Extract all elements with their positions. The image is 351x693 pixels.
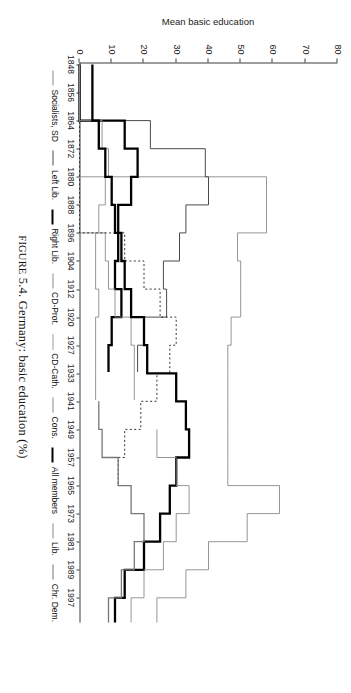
x-tick-label: 1997: [65, 588, 75, 607]
y-tick-label: 30: [171, 44, 181, 54]
legend-item[interactable]: Cons.: [47, 397, 59, 447]
legend-swatch-icon: [47, 564, 58, 579]
legend-item[interactable]: All members: [47, 447, 59, 522]
x-tick-label: 1912: [65, 279, 75, 298]
legend-item[interactable]: CD-Cath.: [47, 334, 59, 397]
legend-item[interactable]: Right Lib.: [47, 209, 59, 273]
legend-item-label: Chr. Dem.: [48, 583, 59, 621]
legend-swatch-icon: [47, 397, 58, 412]
y-tick: [175, 58, 176, 62]
y-tick-label: 60: [268, 44, 278, 54]
y-tick-label: 80: [332, 44, 342, 54]
y-tick: [272, 58, 273, 62]
series-line: [79, 64, 134, 399]
figure-caption: FIGURE 5.4. Germany: basic education (%): [14, 0, 29, 693]
rotated-figure-canvas: Mean basic education 01020304050607080 1…: [0, 0, 351, 693]
y-tick-label: 50: [235, 44, 245, 54]
legend-item[interactable]: Lib.: [47, 523, 59, 565]
legend-item-label: Right Lib.: [48, 228, 59, 264]
legend-item-label: CD-Cath.: [48, 353, 59, 388]
figure-page: Mean basic education 01020304050607080 1…: [0, 0, 351, 693]
series-line: [98, 401, 143, 622]
x-tick-label: 1896: [65, 223, 75, 242]
plot-area: 01020304050607080 1848185618641872188018…: [79, 62, 337, 622]
legend-item-label: Left Lib.: [48, 169, 59, 199]
series-line: [79, 64, 137, 371]
x-tick-label: 1872: [65, 139, 75, 158]
caption-prefix: F: [16, 235, 27, 241]
y-axis-title-label: Mean basic education: [162, 16, 254, 27]
legend-item-label: Socialists, SD: [48, 89, 59, 141]
x-tick-label: 1933: [65, 363, 75, 382]
series-line: [79, 64, 279, 622]
caption-text: Germany: basic education (%): [15, 300, 29, 458]
legend-item[interactable]: Socialists, SD: [47, 70, 59, 150]
legend-swatch-icon: [47, 447, 58, 462]
legend-item[interactable]: CD-Prot.: [47, 273, 59, 334]
y-tick: [207, 58, 208, 62]
x-tick-label: 1927: [65, 335, 75, 354]
y-tick-label: 10: [106, 44, 116, 54]
legend-item[interactable]: Chr. Dem.: [47, 564, 59, 630]
x-tick-label: 1904: [65, 251, 75, 270]
x-tick-label: 1888: [65, 195, 75, 214]
y-tick-label: 20: [139, 44, 149, 54]
legend-swatch-icon: [47, 70, 58, 85]
legend-swatch-icon: [47, 523, 58, 538]
legend-item[interactable]: Left Lib.: [47, 150, 59, 208]
y-tick: [143, 58, 144, 62]
y-tick: [336, 58, 337, 62]
x-tick-label: 1848: [65, 55, 75, 74]
series-line: [92, 64, 189, 622]
x-tick-label: 1880: [65, 167, 75, 186]
y-tick-label: 70: [300, 44, 310, 54]
y-tick-label: 40: [203, 44, 213, 54]
x-tick-label: 1941: [65, 391, 75, 410]
y-tick-label: 0: [74, 49, 84, 54]
figure-wrapper: Mean basic education 01020304050607080 1…: [0, 0, 351, 693]
legend-item-label: Cons.: [48, 416, 59, 438]
x-tick-label: 1989: [65, 560, 75, 579]
x-tick-label: 1920: [65, 307, 75, 326]
x-tick-label: 1973: [65, 504, 75, 523]
series-lines: [79, 62, 337, 622]
y-tick: [304, 58, 305, 62]
x-tick-label: 1957: [65, 448, 75, 467]
legend-swatch-icon: [47, 334, 58, 349]
y-tick: [110, 58, 111, 62]
legend-item-label: CD-Prot.: [48, 292, 59, 325]
x-tick-label: 1949: [65, 419, 75, 438]
x-tick-label: 1981: [65, 532, 75, 551]
legend-item-label: Lib.: [48, 542, 59, 556]
y-tick: [78, 58, 79, 62]
legend-item-label: All members: [48, 466, 59, 513]
x-tick-label: 1864: [65, 111, 75, 130]
x-tick-label: 1856: [65, 83, 75, 102]
legend-swatch-icon: [47, 209, 58, 224]
caption-prefix-rest: IGURE: [16, 241, 27, 274]
y-tick: [239, 58, 240, 62]
legend-swatch-icon: [47, 273, 58, 288]
legend-swatch-icon: [47, 150, 58, 165]
y-axis-title: Mean basic education: [79, 14, 337, 28]
x-tick-label: 1965: [65, 476, 75, 495]
caption-number: 5.4.: [15, 277, 29, 297]
series-line: [79, 64, 176, 484]
